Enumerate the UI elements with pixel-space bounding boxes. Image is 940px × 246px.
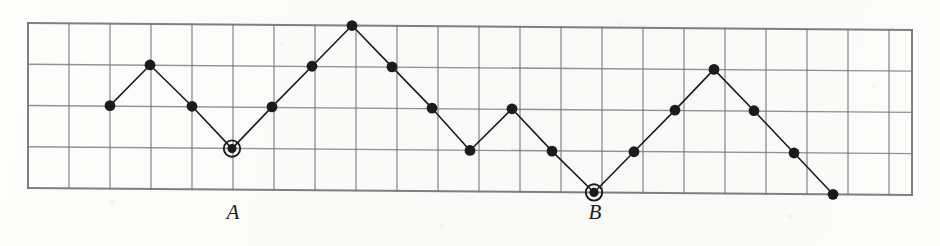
data-point[interactable] xyxy=(145,60,156,71)
data-point[interactable] xyxy=(465,145,476,156)
data-point-A[interactable] xyxy=(227,144,236,153)
data-point[interactable] xyxy=(749,105,760,116)
data-point[interactable] xyxy=(387,61,398,72)
data-point[interactable] xyxy=(427,103,438,114)
grid-line-horizontal xyxy=(28,64,912,71)
grid-line-horizontal xyxy=(28,106,912,113)
data-point[interactable] xyxy=(267,102,278,113)
data-point[interactable] xyxy=(347,20,358,31)
grid-line-horizontal-border xyxy=(28,188,912,195)
data-point[interactable] xyxy=(709,64,720,75)
label-a: A xyxy=(227,200,240,225)
data-point[interactable] xyxy=(547,146,558,157)
data-point-B[interactable] xyxy=(589,188,598,197)
data-point[interactable] xyxy=(307,61,318,72)
zigzag-grid-figure: AB xyxy=(0,0,940,246)
grid-line-horizontal-border xyxy=(28,23,912,30)
grid-lines xyxy=(28,23,912,195)
data-point[interactable] xyxy=(507,103,518,114)
zigzag-plot xyxy=(0,0,940,246)
data-point[interactable] xyxy=(187,101,198,112)
data-point[interactable] xyxy=(629,146,640,157)
data-point[interactable] xyxy=(670,105,681,116)
data-point[interactable] xyxy=(789,148,800,159)
label-b: B xyxy=(589,200,602,225)
data-point[interactable] xyxy=(105,100,116,111)
data-point[interactable] xyxy=(828,189,839,200)
